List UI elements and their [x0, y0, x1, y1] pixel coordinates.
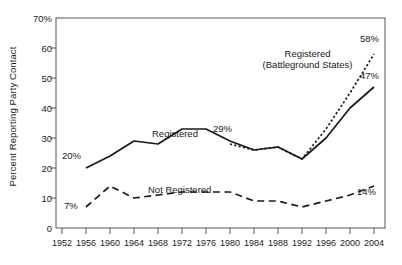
series-label-battleground-line1: Registered [255, 48, 360, 59]
annotation-14-percent: 14% [357, 186, 376, 197]
x-axis-ticks [62, 228, 374, 234]
x-tick-1968: 1968 [148, 238, 168, 248]
x-tick-2000: 2000 [340, 238, 360, 248]
series-label-registered: Registered [152, 128, 198, 139]
x-tick-1976: 1976 [196, 238, 216, 248]
chart-container: Percent Reporting Party Contact 70% 60 5… [0, 0, 402, 265]
y-axis-ticks [50, 48, 56, 198]
series-label-not-registered: Not Registered [148, 184, 211, 195]
annotation-20-percent: 20% [62, 150, 81, 161]
x-tick-1992: 1992 [292, 238, 312, 248]
x-tick-2004: 2004 [364, 238, 384, 248]
x-tick-1964: 1964 [124, 238, 144, 248]
series-label-battleground-line2: (Battleground States) [255, 59, 360, 70]
x-tick-1984: 1984 [244, 238, 264, 248]
annotation-29-percent: 29% [213, 123, 232, 134]
x-tick-1956: 1956 [76, 238, 96, 248]
x-tick-1988: 1988 [268, 238, 288, 248]
x-axis-tick-labels: 1952 1956 1960 1964 1968 1972 1976 1980 … [0, 238, 402, 254]
x-tick-1996: 1996 [316, 238, 336, 248]
series-label-battleground: Registered (Battleground States) [255, 48, 360, 70]
x-tick-1980: 1980 [220, 238, 240, 248]
annotation-47-percent: 47% [360, 70, 379, 81]
x-tick-1960: 1960 [100, 238, 120, 248]
annotation-58-percent: 58% [360, 33, 379, 44]
x-tick-1952: 1952 [52, 238, 72, 248]
chart-plot-svg [0, 0, 402, 265]
annotation-7-percent: 7% [64, 200, 78, 211]
x-tick-1972: 1972 [172, 238, 192, 248]
